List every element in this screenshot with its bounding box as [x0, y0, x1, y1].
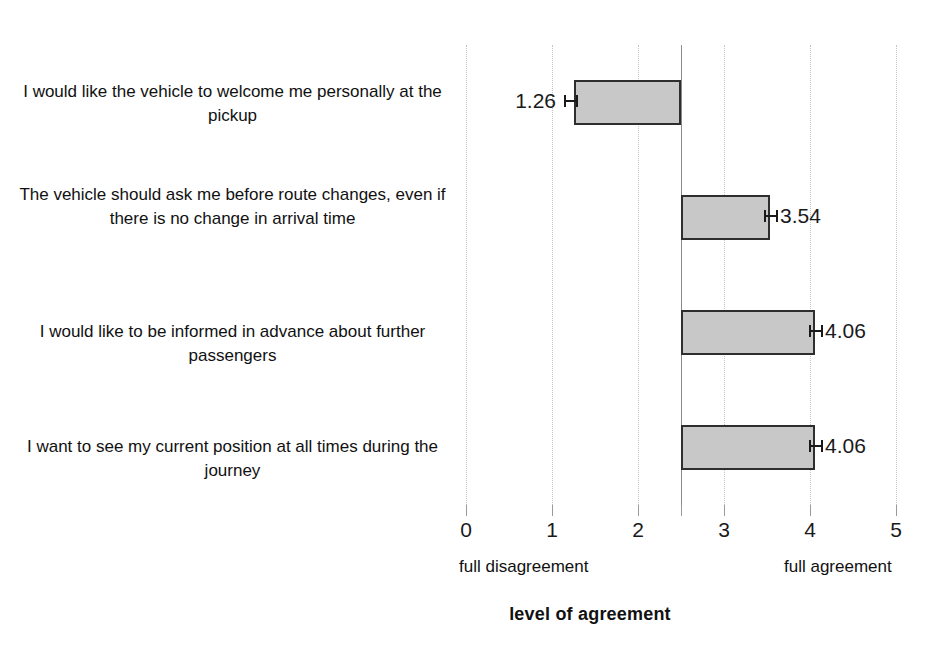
axis-tick-label: 3 [704, 518, 744, 542]
error-bar [764, 215, 778, 217]
scale-anchor-low: full disagreement [459, 556, 588, 578]
axis-tick [552, 505, 553, 516]
bar-row: 1.26 [466, 45, 896, 160]
scale-anchor-high: full agreement [784, 556, 892, 578]
bar-value-label: 1.26 [444, 90, 556, 112]
axis-tick-label: 4 [790, 518, 830, 542]
bar-row: 4.06 [466, 275, 896, 390]
axis-tick [681, 505, 682, 516]
x-axis-title: level of agreement [509, 604, 671, 625]
bar[interactable] [574, 80, 681, 125]
bar-chart: 1.26 3.54 4.06 4.06 I would like the veh… [0, 0, 950, 656]
category-label: I would like the vehicle to welcome me p… [10, 80, 455, 128]
bar[interactable] [681, 425, 815, 470]
axis-tick-label: 2 [618, 518, 658, 542]
bar-row: 3.54 [466, 160, 896, 275]
category-label: I would like to be informed in advance a… [10, 320, 455, 368]
axis-tick-label: 5 [876, 518, 916, 542]
axis-tick-label: 0 [446, 518, 486, 542]
axis-tick [810, 505, 811, 516]
bar-value-label: 3.54 [780, 205, 892, 227]
category-label: The vehicle should ask me before route c… [10, 183, 455, 231]
bar-value-label: 4.06 [825, 320, 937, 342]
error-bar [809, 330, 823, 332]
bar-value-label: 4.06 [825, 435, 937, 457]
bar-row: 4.06 [466, 390, 896, 505]
axis-tick [724, 505, 725, 516]
x-axis-title-wrapper: level of agreement [0, 604, 950, 625]
axis-tick-label: 1 [532, 518, 572, 542]
error-bar [564, 100, 578, 102]
error-bar [809, 445, 823, 447]
axis-tick [638, 505, 639, 516]
axis-tick [466, 505, 467, 516]
category-label: I want to see my current position at all… [10, 435, 455, 483]
bar[interactable] [681, 195, 770, 240]
bar[interactable] [681, 310, 815, 355]
plot-area: 1.26 3.54 4.06 4.06 [466, 45, 896, 505]
axis-tick [896, 505, 897, 516]
